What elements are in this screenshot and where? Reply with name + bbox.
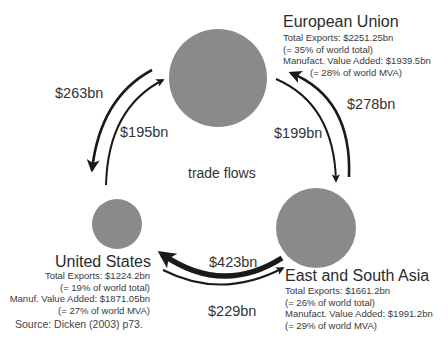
asia-total-exports: Total Exports: $1661.2bn xyxy=(285,285,390,297)
eu-title: European Union xyxy=(283,14,399,30)
trade-flows-label: trade flows xyxy=(188,166,256,180)
us-exports-share: (= 19% of world total) xyxy=(60,282,150,294)
flow-label-us-to-eu: $195bn xyxy=(120,125,168,140)
flow-label-eu-to-us: $263bn xyxy=(55,86,103,101)
asia-circle xyxy=(276,188,356,268)
us-mva-share: (= 27% of world MVA) xyxy=(58,305,150,317)
us-circle xyxy=(92,199,142,249)
us-mva: Manuf. Value Added: $1871.05bn xyxy=(10,293,150,305)
eu-exports-share: (= 35% of world total) xyxy=(283,44,373,56)
asia-mva: Manufact. Value Added: $1991.2bn xyxy=(285,308,433,320)
flow-label-asia-to-eu: $278bn xyxy=(347,97,395,112)
flow-label-eu-to-asia: $199bn xyxy=(274,126,322,141)
eu-total-exports: Total Exports: $2251.25bn xyxy=(283,32,393,44)
eu-circle xyxy=(169,29,267,127)
us-total-exports: Total Exports: $1224.2bn xyxy=(45,270,150,282)
asia-exports-share: (= 26% of world total) xyxy=(285,297,375,309)
eu-mva: Manufact. Value Added: $1939.5bn xyxy=(283,55,431,67)
flow-label-us-to-asia: $229bn xyxy=(208,304,256,319)
us-title: United States xyxy=(55,254,151,270)
source-citation: Source: Dicken (2003) p73. xyxy=(15,319,143,330)
eu-mva-share: (= 28% of world MVA) xyxy=(310,67,402,79)
asia-mva-share: (= 29% of world MVA) xyxy=(285,320,377,332)
flow-label-asia-to-us: $423bn xyxy=(209,255,257,270)
asia-title: East and South Asia xyxy=(285,268,429,284)
